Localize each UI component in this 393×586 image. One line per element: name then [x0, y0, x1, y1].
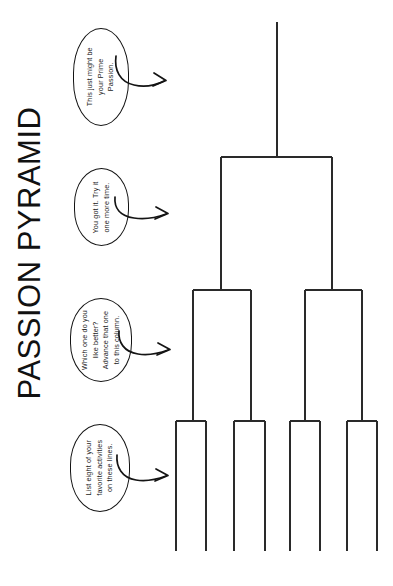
passion-pyramid-bracket [0, 0, 393, 586]
callout-text-prime-passion: This just might be your Prime Passion. [85, 47, 117, 106]
callout-text-round-one: List eight of your favorite activities o… [84, 440, 116, 496]
callout-text-round-three: You got it. Try it one more time. [91, 181, 112, 233]
callout-text-round-two: Which one do you like better? Advance th… [80, 310, 122, 370]
callout-bubble-prime-passion: This just might be your Prime Passion. [73, 28, 129, 126]
callout-bubble-round-three: You got it. Try it one more time. [74, 168, 129, 246]
callout-bubble-round-two: Which one do you like better? Advance th… [70, 298, 132, 382]
worksheet-page: PASSION PYRAMID This just might be your … [0, 0, 393, 586]
callout-bubble-round-one: List eight of your favorite activities o… [70, 424, 130, 512]
bracket-line-group [176, 22, 377, 551]
